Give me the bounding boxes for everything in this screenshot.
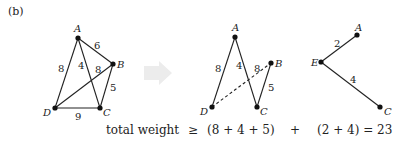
node-label-B: B (274, 58, 282, 69)
equation-relation: ≥ (188, 123, 198, 137)
node-label-A: A (231, 22, 239, 33)
node-C (97, 105, 102, 110)
node-label-E: E (310, 57, 319, 68)
node-label-A: A (73, 23, 81, 34)
node-B (268, 60, 273, 65)
equation-lhs: total weight (106, 123, 179, 137)
graph-extra (321, 35, 380, 107)
weight-D-C: 9 (75, 111, 81, 122)
equation-term1: (8 + 4 + 5) (207, 123, 275, 137)
equation-plus: + (290, 123, 300, 137)
equation-term2: (2 + 4) = 23 (317, 123, 392, 137)
node-D (52, 105, 57, 110)
node-label-C: C (384, 106, 392, 117)
node-B (110, 61, 115, 66)
weight-A-D: 8 (215, 63, 221, 74)
node-E (318, 59, 323, 64)
weight-A-B: 6 (94, 40, 100, 51)
weight-D-B: 8 (254, 63, 260, 74)
weight-B-C: 5 (110, 82, 116, 93)
node-D (209, 104, 214, 109)
node-label-A: A (354, 22, 362, 33)
diagram-svg: (b) A B C D 6 8 4 8 5 9 (0, 0, 401, 142)
panel-label: (b) (8, 5, 24, 18)
node-label-D: D (199, 106, 208, 117)
diagram-canvas: (b) A B C D 6 8 4 8 5 9 (0, 0, 401, 142)
node-A (232, 34, 237, 39)
node-C (377, 104, 382, 109)
node-label-D: D (42, 107, 51, 118)
right-arrow-icon (144, 61, 172, 85)
node-C (254, 104, 259, 109)
weight-D-B: 8 (95, 64, 101, 75)
node-label-B: B (116, 59, 124, 70)
equation: total weight ≥ (8 + 4 + 5) + (2 + 4) = 2… (106, 123, 392, 137)
graph-extra-labels: A E C 2 4 (310, 22, 392, 117)
weight-A-D: 8 (58, 63, 64, 74)
graph-extra-nodes (318, 32, 382, 109)
node-label-C: C (260, 106, 268, 117)
weight-A-C: 4 (236, 60, 242, 71)
weight-B-C: 5 (268, 82, 274, 93)
weight-A-C: 4 (78, 60, 84, 71)
graph-path-labels: A B C D 8 4 5 8 (199, 22, 282, 117)
weight-E-C: 4 (350, 74, 356, 85)
node-A (75, 35, 80, 40)
node-A (354, 32, 359, 37)
node-label-C: C (103, 107, 111, 118)
weight-E-A: 2 (334, 38, 340, 49)
